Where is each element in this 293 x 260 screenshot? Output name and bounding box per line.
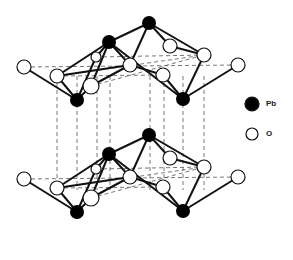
top-cell-dashed-line [96,55,204,57]
bottom-lead-atom [176,204,190,218]
top-bond [149,23,204,55]
top-oxygen-atom [91,52,101,62]
top-oxygen-atom [50,69,64,83]
top-bond [24,67,77,100]
pbo-crystal-structure-diagram: Pb O [0,0,293,260]
top-lead-atom [176,92,190,106]
bottom-oxygen-atom [123,170,137,184]
top-oxygen-atom [123,58,137,72]
bottom-bond [24,179,77,212]
bottom-oxygen-atom [197,160,211,174]
legend-o-icon [246,128,258,140]
bottom-oxygen-atom [83,190,99,206]
bottom-bond [149,135,204,167]
bottom-lead-atom [142,128,156,142]
bottom-oxygen-atom [50,181,64,195]
bottom-oxygen-atom [231,170,245,184]
top-oxygen-atom [83,78,99,94]
top-lead-atom [142,16,156,30]
legend-label-pb: Pb [266,99,276,108]
top-lead-atom [70,93,84,107]
bottom-oxygen-atom [91,164,101,174]
bottom-oxygen-atom [156,180,170,194]
top-oxygen-atom [163,39,177,53]
bottom-lead-atom [70,205,84,219]
top-lead-atom [102,35,116,49]
bottom-oxygen-atom [17,172,31,186]
bottom-oxygen-atom [163,151,177,165]
top-oxygen-atom [17,60,31,74]
top-oxygen-atom [156,68,170,82]
top-oxygen-atom [231,58,245,72]
legend-label-o: O [266,129,272,138]
top-oxygen-atom [197,48,211,62]
bottom-lead-atom [102,147,116,161]
legend-pb-icon [245,97,259,111]
crystal-structure-svg [0,0,293,260]
